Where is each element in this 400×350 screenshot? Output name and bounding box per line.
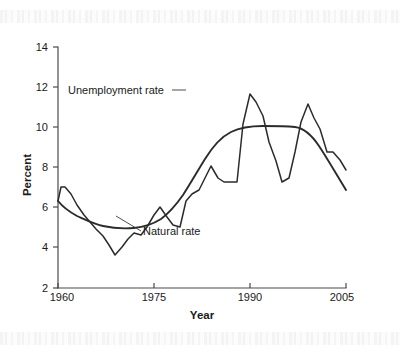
annotation-label-natural-rate: Natural rate xyxy=(143,225,200,237)
y-tick-label-8: 8 xyxy=(42,161,48,173)
y-tick-label-2: 2 xyxy=(42,282,48,294)
annotation-unemployment-rate: Unemployment rate xyxy=(68,84,186,96)
y-axis-tick-labels: 14 12 10 8 6 4 2 xyxy=(36,41,48,294)
line-chart: 14 12 10 8 6 4 2 1960 1975 1990 2005 Yea… xyxy=(0,0,400,350)
x-tick-label-1990: 1990 xyxy=(238,291,262,303)
annotation-label-unemployment-rate: Unemployment rate xyxy=(68,84,164,96)
y-tick-label-6: 6 xyxy=(42,201,48,213)
y-axis-title: Percent xyxy=(21,154,33,196)
x-tick-label-1960: 1960 xyxy=(50,291,74,303)
y-tick-label-4: 4 xyxy=(42,241,48,253)
y-tick-label-12: 12 xyxy=(36,81,48,93)
annotation-natural-rate: Natural rate xyxy=(116,216,200,237)
x-tick-label-1975: 1975 xyxy=(142,291,166,303)
x-tick-label-2005: 2005 xyxy=(330,291,354,303)
y-tick-label-14: 14 xyxy=(36,41,48,53)
series-line-unemployment-rate xyxy=(58,94,346,255)
x-axis-tick-labels: 1960 1975 1990 2005 xyxy=(50,291,354,303)
y-tick-label-10: 10 xyxy=(36,121,48,133)
x-axis-ticks xyxy=(58,283,346,288)
series-line-natural-rate xyxy=(58,126,346,228)
figure-container: 14 12 10 8 6 4 2 1960 1975 1990 2005 Yea… xyxy=(0,0,400,350)
x-axis-title: Year xyxy=(190,309,215,321)
y-axis-ticks xyxy=(53,47,58,288)
